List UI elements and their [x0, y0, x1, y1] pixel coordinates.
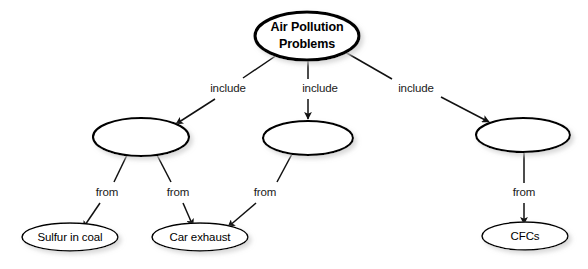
node-shape-root — [255, 12, 359, 60]
node-shape-middle-1 — [93, 118, 189, 156]
edge-segment-lower — [228, 203, 256, 227]
node-middle-3[interactable] — [476, 118, 570, 152]
edge-segment-upper — [157, 155, 171, 182]
node-label-sulfur-in-coal: Sulfur in coal — [37, 231, 102, 243]
edge-label-include-2: include — [302, 82, 338, 94]
edge-label-from-1: from — [96, 186, 119, 198]
edge-segment-lower — [441, 97, 489, 122]
edge-label-from-2: from — [167, 186, 190, 198]
node-cfcs[interactable]: CFCs — [482, 222, 568, 250]
edge-segment-lower — [176, 99, 215, 124]
edge-segment-upper — [114, 155, 127, 182]
node-sulfur-in-coal[interactable]: Sulfur in coal — [22, 223, 118, 251]
concept-map-canvas: include include include from from from f… — [0, 0, 588, 269]
node-middle-1[interactable] — [93, 118, 189, 156]
edge-segment-upper — [243, 55, 277, 78]
edge-segment-upper — [345, 52, 392, 79]
edge-label-include-1: include — [210, 82, 246, 94]
node-air-pollution-problems[interactable]: Air Pollution Problems — [255, 12, 359, 60]
concept-map-svg: include include include from from from f… — [0, 0, 588, 269]
node-shape-middle-2 — [263, 121, 353, 155]
node-shape-middle-3 — [476, 118, 570, 152]
edge-label-include-3: include — [398, 82, 434, 94]
node-layer: Air Pollution Problems Sulfur in coal — [22, 12, 570, 251]
node-label-root-line1: Air Pollution — [271, 20, 344, 34]
node-label-car-exhaust: Car exhaust — [170, 231, 232, 243]
edge-label-from-4: from — [513, 186, 536, 198]
node-label-root-line2: Problems — [279, 37, 335, 51]
node-middle-2[interactable] — [263, 121, 353, 155]
node-label-cfcs: CFCs — [511, 230, 540, 242]
edge-segment-upper — [277, 154, 292, 182]
edge-label-from-3: from — [254, 186, 277, 198]
node-car-exhaust[interactable]: Car exhaust — [152, 223, 248, 251]
